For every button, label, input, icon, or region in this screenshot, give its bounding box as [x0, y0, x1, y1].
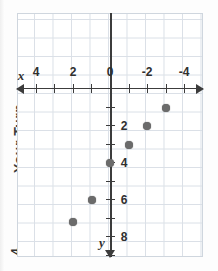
- x-tick-1: [91, 85, 92, 94]
- x-tick-minus3: [166, 85, 167, 94]
- coordinate-plane: 8 6 4 2 4 2 0 -2 -4 y x: [17, 13, 203, 257]
- x-tick-minus4: [184, 85, 185, 94]
- y-axis-tick-label-2: 2: [113, 119, 135, 133]
- y-tick-3: [106, 144, 115, 145]
- x-tick-minus1: [129, 85, 130, 94]
- x-axis-tick-label-minus2: -2: [136, 65, 158, 79]
- y-axis-tick-label-8: 8: [113, 230, 135, 244]
- x-tick-3: [54, 85, 55, 94]
- x-axis-label: x: [13, 69, 29, 83]
- x-tick-4: [36, 85, 37, 94]
- data-point: [162, 104, 170, 112]
- x-tick-2: [73, 85, 74, 94]
- x-axis-tick-label-2: 2: [62, 65, 84, 79]
- x-axis-number-line: [17, 88, 203, 90]
- data-point: [125, 141, 133, 149]
- worksheet-page: Your Turn 4.: [0, 0, 218, 271]
- graph-rotated-container: 8 6 4 2 4 2 0 -2 -4 y x: [17, 13, 203, 257]
- y-axis-number-line: [110, 13, 112, 257]
- y-tick-5: [106, 181, 115, 182]
- page-gutter-shading: [0, 0, 5, 271]
- x-tick-minus2: [147, 85, 148, 94]
- y-tick-7: [106, 218, 115, 219]
- y-axis-label: y: [94, 236, 110, 250]
- x-axis-tick-label-minus4: -4: [173, 65, 195, 79]
- x-axis-arrow-positive-icon: [16, 84, 24, 94]
- y-axis-tick-label-6: 6: [113, 193, 135, 207]
- y-tick-1: [106, 107, 115, 108]
- y-tick-9: [106, 255, 115, 256]
- x-axis-arrow-negative-icon: [196, 84, 204, 94]
- y-axis-tick-label-4: 4: [113, 156, 135, 170]
- x-axis-tick-label-0: 0: [99, 65, 121, 79]
